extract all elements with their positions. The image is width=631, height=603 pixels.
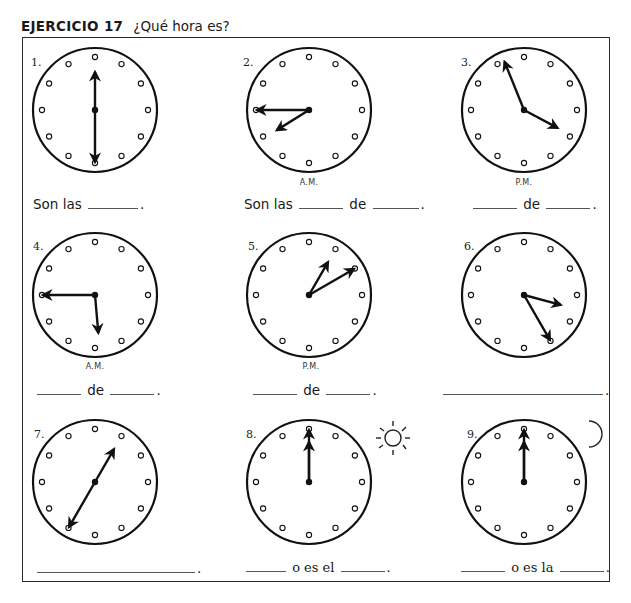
clock-center-pin	[306, 107, 312, 113]
answer-line-3: de .	[471, 196, 597, 212]
clock-face-1	[33, 48, 157, 172]
answer-period: .	[605, 382, 609, 398]
clock-face-2	[247, 48, 371, 172]
clock-face-7	[33, 420, 157, 544]
clock-face-5	[247, 233, 371, 357]
answer-blank[interactable]	[443, 393, 603, 395]
answer-period: .	[140, 196, 144, 212]
clock-center-pin	[306, 479, 312, 485]
period-label-4: A.M.	[86, 362, 105, 371]
answer-blank-hour[interactable]	[253, 393, 297, 395]
answer-prefix: Son las	[244, 196, 293, 212]
answer-blank-hour[interactable]	[461, 570, 505, 572]
answer-blank[interactable]	[88, 207, 138, 209]
clock-number-4: 4.	[33, 240, 44, 253]
answer-blank-hour[interactable]	[37, 393, 81, 395]
clock-center-pin	[521, 107, 527, 113]
answer-period: .	[197, 560, 201, 576]
answer-blank-period[interactable]	[373, 207, 419, 209]
answer-line-5: de .	[251, 382, 377, 398]
period-label-2: A.M.	[300, 178, 319, 187]
answer-connector: o es el	[292, 560, 334, 575]
clock-face-6	[462, 233, 586, 357]
answer-blank-period[interactable]	[110, 393, 154, 395]
answer-period: .	[387, 560, 391, 575]
clock-face-8	[247, 420, 371, 544]
answer-period: .	[421, 196, 425, 212]
answer-blank-hour[interactable]	[299, 207, 343, 209]
sun-icon	[376, 421, 410, 455]
clock-center-pin	[521, 292, 527, 298]
clock-center-pin	[92, 292, 98, 298]
clock-face-9	[462, 420, 586, 544]
clocks-canvas	[0, 0, 631, 603]
answer-line-4: de .	[35, 382, 161, 398]
answer-line-7: .	[35, 560, 201, 576]
answer-line-9: o es la .	[459, 560, 610, 575]
answer-connector: de	[303, 382, 320, 398]
clock-number-2: 2.	[243, 56, 254, 69]
answer-connector: de	[87, 382, 104, 398]
clock-number-1: 1.	[31, 56, 42, 69]
answer-connector: de	[523, 196, 540, 212]
period-label-5: P.M.	[303, 362, 320, 371]
clock-center-pin	[306, 292, 312, 298]
answer-blank-hour[interactable]	[246, 570, 286, 572]
clock-center-pin	[92, 479, 98, 485]
clock-number-6: 6.	[464, 240, 475, 253]
answer-blank-word[interactable]	[560, 570, 604, 572]
answer-blank[interactable]	[37, 571, 195, 573]
answer-period: .	[592, 196, 596, 212]
answer-line-1: Son las .	[33, 196, 144, 212]
clock-center-pin	[92, 107, 98, 113]
clock-number-3: 3.	[461, 56, 472, 69]
clock-number-5: 5.	[248, 240, 259, 253]
answer-blank-period[interactable]	[546, 207, 590, 209]
clock-number-8: 8.	[246, 428, 257, 441]
answer-period: .	[156, 382, 160, 398]
period-label-3: P.M.	[516, 178, 533, 187]
clock-number-9: 9.	[467, 428, 478, 441]
clock-face-4	[33, 233, 157, 357]
answer-line-6: .	[441, 382, 609, 398]
answer-blank-period[interactable]	[326, 393, 370, 395]
clock-center-pin	[521, 479, 527, 485]
answer-period: .	[372, 382, 376, 398]
clock-face-3	[462, 48, 586, 172]
answer-connector: de	[349, 196, 366, 212]
answer-line-2: Son las de .	[244, 196, 425, 212]
answer-connector: o es la	[511, 560, 553, 575]
answer-prefix: Son las	[33, 196, 82, 212]
answer-period: .	[606, 560, 610, 575]
answer-blank-word[interactable]	[341, 570, 385, 572]
answer-line-8: o es el .	[244, 560, 391, 575]
moon-icon	[589, 421, 602, 447]
clock-number-7: 7.	[34, 428, 45, 441]
answer-blank-hour[interactable]	[473, 207, 517, 209]
